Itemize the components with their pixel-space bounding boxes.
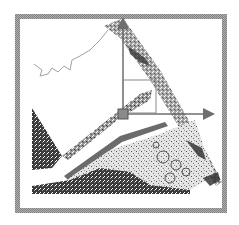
origin-marker xyxy=(118,109,128,119)
figure xyxy=(0,0,239,225)
micrograph-figure xyxy=(0,0,239,225)
